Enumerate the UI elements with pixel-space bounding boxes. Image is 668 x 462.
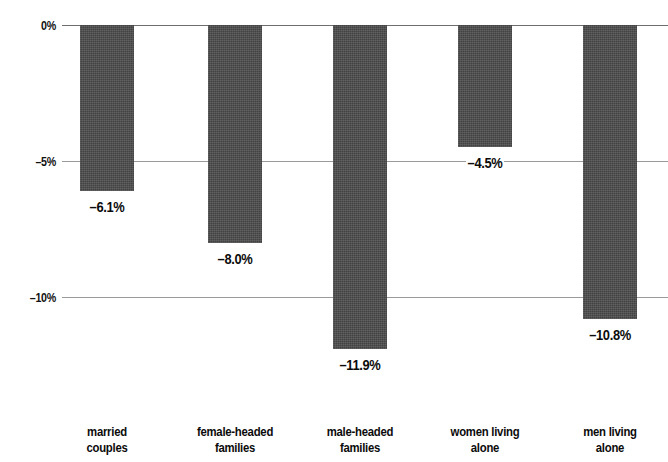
y-tick-label-0: 0% xyxy=(10,19,56,32)
value-label-men-living-alone: –10.8% xyxy=(565,327,654,342)
value-label-female-headed-families: –8.0% xyxy=(192,251,278,266)
bar-men-living-alone[interactable] xyxy=(583,25,637,319)
value-label-text: –10.8% xyxy=(587,326,632,343)
category-label-line-1: male-headed xyxy=(327,424,394,439)
bar-male-headed-families[interactable] xyxy=(333,25,387,349)
category-label-line-2: alone xyxy=(435,440,536,456)
value-label-male-headed-families: –11.9% xyxy=(317,357,403,372)
category-label-male-headed-families: male-headed families xyxy=(310,424,411,456)
value-label-text: –4.5% xyxy=(466,154,504,171)
category-label-line-1: men living xyxy=(583,424,637,439)
bar-female-headed-families[interactable] xyxy=(208,25,262,243)
category-label-line-2: couples xyxy=(57,440,158,456)
value-label-text: –6.1% xyxy=(88,198,126,215)
category-label-line-2: families xyxy=(310,440,411,456)
bar-chart: 0% –5% –10% –6.1% –8.0% –11.9% –4.5% –10… xyxy=(0,0,668,462)
category-label-men-living-alone: men living alone xyxy=(560,424,661,456)
category-label-married-couples: married couples xyxy=(57,424,158,456)
y-tick-label-minus-10: –10% xyxy=(10,291,56,304)
bar-married-couples[interactable] xyxy=(80,25,134,191)
value-label-women-living-alone: –4.5% xyxy=(442,155,528,170)
y-tick-label-minus-5: –5% xyxy=(10,155,56,168)
value-label-married-couples: –6.1% xyxy=(64,199,150,214)
bar-women-living-alone[interactable] xyxy=(458,25,512,147)
category-label-women-living-alone: women living alone xyxy=(435,424,536,456)
category-label-female-headed-families: female-headed families xyxy=(185,424,286,456)
category-label-line-1: women living xyxy=(451,424,520,439)
value-label-text: –11.9% xyxy=(338,356,382,373)
category-label-line-1: married xyxy=(87,424,127,439)
category-label-line-1: female-headed xyxy=(197,424,273,439)
value-label-text: –8.0% xyxy=(216,250,254,267)
category-label-line-2: families xyxy=(185,440,286,456)
category-label-line-2: alone xyxy=(560,440,661,456)
